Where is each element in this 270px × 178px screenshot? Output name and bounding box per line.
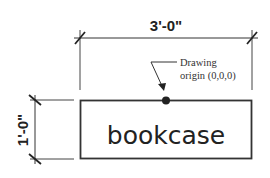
bookcase-plan-drawing: 3'-0" 1'-0" bookcase Drawing origin (0,0… <box>0 0 270 178</box>
annotation-line-1: Drawing <box>180 57 217 68</box>
origin-annotation: Drawing origin (0,0,0) <box>151 57 236 91</box>
origin-point-icon <box>162 97 170 105</box>
bookcase-label: bookcase <box>107 121 225 150</box>
height-dimension-text: 1'-0" <box>14 114 31 146</box>
height-dimension: 1'-0" <box>14 95 74 164</box>
leader-line <box>151 62 177 86</box>
width-dimension-text: 3'-0" <box>150 17 182 34</box>
arrowhead-icon <box>158 83 166 91</box>
annotation-line-2: origin (0,0,0) <box>180 70 236 82</box>
